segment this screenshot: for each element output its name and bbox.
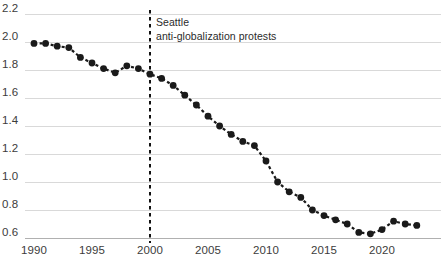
- x-tick-label: 2005: [195, 244, 221, 256]
- y-tick-label: 1.8: [2, 58, 18, 70]
- annotation-seattle-line-1: Seattle: [156, 16, 189, 28]
- annotation-seattle-line-2: anti-globalization protests: [156, 30, 276, 42]
- y-tick-label: 1.0: [2, 170, 18, 182]
- data-series-line: [34, 43, 417, 233]
- y-tick-label: 1.6: [2, 86, 18, 98]
- y-tick-label: 2.2: [2, 2, 18, 14]
- chart-container: 0.60.81.01.21.41.61.82.02.2 199019952000…: [0, 0, 441, 261]
- x-tick-label: 2015: [311, 244, 337, 256]
- x-tick-label: 2000: [137, 244, 163, 256]
- y-tick-label: 0.8: [2, 198, 18, 210]
- gridlines: [25, 14, 441, 238]
- x-tick-label: 2010: [253, 244, 279, 256]
- x-tick-label: 1990: [21, 244, 47, 256]
- y-tick-label: 1.2: [2, 142, 18, 154]
- x-tick-label: 2020: [369, 244, 395, 256]
- y-tick-label: 1.4: [2, 114, 18, 126]
- x-tick-label: 1995: [79, 244, 105, 256]
- y-tick-label: 0.6: [2, 226, 18, 238]
- y-tick-label: 2.0: [2, 30, 18, 42]
